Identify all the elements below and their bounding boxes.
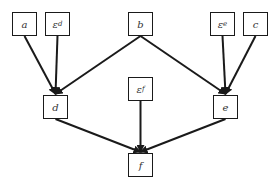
node-b: b <box>128 12 153 36</box>
node-f: f <box>128 153 153 177</box>
node-label: d <box>52 102 58 113</box>
node-label: c <box>253 19 259 30</box>
node-eps-e: εe <box>210 12 235 36</box>
node-subscript: d <box>58 20 62 28</box>
node-label: e <box>223 102 229 113</box>
edge-b-to-e <box>141 36 226 94</box>
node-label: a <box>22 19 28 30</box>
node-eps-d: εd <box>45 12 70 36</box>
node-c: c <box>243 12 268 36</box>
node-eps-f: εf <box>128 77 153 101</box>
node-a: a <box>12 12 37 36</box>
node-e: e <box>213 95 238 119</box>
edge-eps_d-to-d <box>56 36 58 94</box>
node-label: f <box>139 160 143 171</box>
edge-e-to-f <box>141 119 226 152</box>
edge-d-to-f <box>56 119 141 152</box>
node-subscript: f <box>142 85 145 93</box>
node-subscript: e <box>223 20 227 28</box>
edge-a-to-d <box>25 36 56 94</box>
node-label: b <box>137 19 143 30</box>
node-d: d <box>43 95 68 119</box>
edge-eps_e-to-e <box>223 36 226 94</box>
edge-c-to-e <box>226 36 256 94</box>
